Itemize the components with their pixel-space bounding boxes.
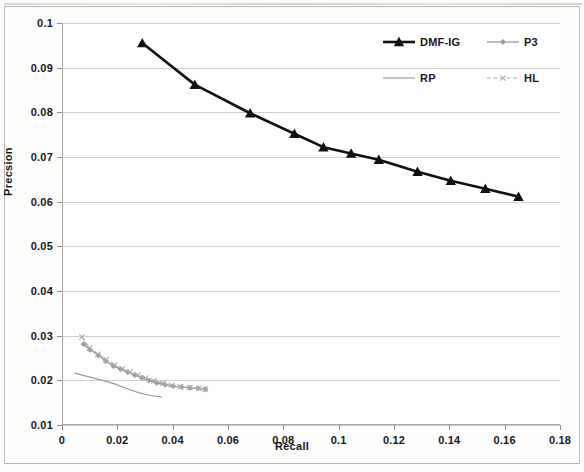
legend-swatch-icon [382,36,416,48]
x-axis-tick [505,425,506,430]
series-line [82,337,205,389]
legend-item-dmf-ig[interactable]: DMF-IG [382,36,460,48]
y-axis-tick-label: 0.08 [31,106,53,118]
y-axis-tick-label: 0.01 [31,419,53,431]
series-rp [75,373,161,397]
y-axis-tick-label: 0.1 [37,17,53,29]
legend-swatch-icon [382,72,416,84]
y-axis-tick-label: 0.07 [31,151,53,163]
x-axis-tick [228,425,229,430]
y-axis-tick-label: 0.04 [31,285,53,297]
legend-item-p3[interactable]: P3 [486,36,538,48]
y-axis-title: Precsion [2,147,14,196]
data-point-marker [137,38,147,47]
series-hl [79,334,208,392]
x-axis-tick [560,425,561,430]
legend-label: HL [524,72,539,84]
precision-recall-figure: 0.010.020.030.040.050.060.070.080.090.1 … [0,0,584,472]
legend-swatch-icon [486,72,520,84]
series-p3 [81,341,209,392]
legend-item-rp[interactable]: RP [382,72,436,84]
chart-legend: DMF-IGP3RPHL [382,36,564,94]
y-axis-tick-label: 0.09 [31,62,53,74]
x-axis-tick [394,425,395,430]
legend-label: DMF-IG [420,36,460,48]
x-axis-tick [339,425,340,430]
legend-item-hl[interactable]: HL [486,72,539,84]
gridline [62,425,560,426]
x-axis-tick [283,425,284,430]
x-axis-tick [449,425,450,430]
x-axis-tick [62,425,63,430]
y-axis-tick-label: 0.02 [31,374,53,386]
y-axis-tick-label: 0.03 [31,330,53,342]
series-line [75,373,161,397]
page-edge-artifact [4,3,582,5]
y-axis-tick-label: 0.06 [31,196,53,208]
legend-swatch-icon [486,36,520,48]
x-axis-tick [173,425,174,430]
legend-label: RP [420,72,436,84]
data-point-marker [79,334,84,339]
x-axis-title: Recall [0,440,584,452]
legend-label: P3 [524,36,538,48]
y-axis-tick-label: 0.05 [31,240,53,252]
x-axis-tick [117,425,118,430]
series-line [84,344,206,389]
